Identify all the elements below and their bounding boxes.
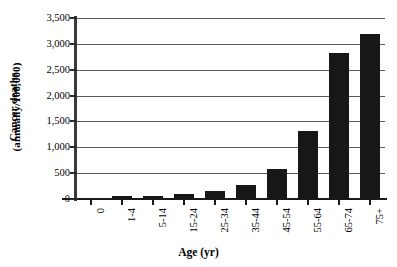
x-tick-label-text: 75+ [374, 208, 385, 250]
y-tick-mark [70, 146, 77, 148]
y-tick-mark [70, 172, 77, 174]
x-tick-mark [338, 199, 340, 205]
x-tick-label-text: 5-14 [157, 208, 168, 250]
x-tick-label: 5-14 [157, 166, 168, 208]
y-tick-mark [70, 43, 77, 45]
x-tick-label: 25-34 [219, 166, 230, 208]
plot-area [76, 18, 385, 199]
x-tick-mark [245, 199, 247, 205]
x-tick-mark [121, 199, 123, 205]
x-tick-label: 45-54 [281, 166, 292, 208]
x-tick-mark [214, 199, 216, 205]
gridline [76, 44, 385, 45]
x-tick-label-text: 1-4 [126, 208, 137, 250]
y-tick-label: 1,000 [24, 142, 70, 152]
x-tick-label-text: 0 [95, 208, 106, 250]
y-tick-label: 2,000 [24, 91, 70, 101]
x-tick-label: 35-44 [250, 166, 261, 208]
y-tick-label: 2,500 [24, 65, 70, 75]
x-tick-label-text: 35-44 [250, 208, 261, 250]
y-tick-mark [70, 120, 77, 122]
y-tick-mark [70, 17, 77, 19]
x-tick-mark [307, 199, 309, 205]
y-tick-label: 3,500 [24, 13, 70, 23]
x-tick-label-text: 15-24 [188, 208, 199, 250]
y-tick-mark [70, 69, 77, 71]
y-tick-label: 500 [24, 168, 70, 178]
x-tick-mark [183, 199, 185, 205]
x-tick-mark [276, 199, 278, 205]
x-tick-label-text: 65-74 [343, 208, 354, 250]
y-tick-mark [70, 95, 77, 97]
y-tick-mark [70, 198, 77, 200]
x-tick-mark [90, 199, 92, 205]
x-tick-label: 65-74 [343, 166, 354, 208]
x-tick-label: 15-24 [188, 166, 199, 208]
gridline [76, 18, 385, 19]
x-axis-title: Age (yr) [0, 246, 397, 258]
bar-chart-figure: Cancer deaths (annually/100,000) 05001,0… [0, 0, 397, 267]
x-tick-label-text: 45-54 [281, 208, 292, 250]
x-tick-label-text: 25-34 [219, 208, 230, 250]
y-axis-title-line-2: (annually/100,000) [10, 12, 24, 202]
y-tick-label: 1,500 [24, 116, 70, 126]
x-tick-mark [152, 199, 154, 205]
x-tick-mark [369, 199, 371, 205]
x-tick-label: 55-64 [312, 166, 323, 208]
x-tick-label-text: 55-64 [312, 208, 323, 250]
x-tick-label: 1-4 [126, 166, 137, 208]
x-tick-label: 0 [95, 166, 106, 208]
y-axis-tick-labels: 05001,0001,5002,0002,5003,0003,500 [24, 0, 70, 215]
y-tick-label: 3,000 [24, 39, 70, 49]
x-tick-label: 75+ [374, 166, 385, 208]
